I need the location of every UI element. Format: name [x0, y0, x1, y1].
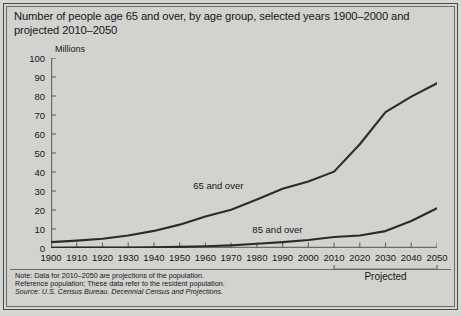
- footnotes: Note: Data for 2010–2050 are projections…: [15, 272, 435, 297]
- chart-figure: Number of people age 65 and over, by age…: [0, 0, 461, 316]
- footnote-separator: [10, 269, 451, 270]
- footnote-line: Source: U.S. Census Bureau. Decennial Ce…: [15, 288, 435, 296]
